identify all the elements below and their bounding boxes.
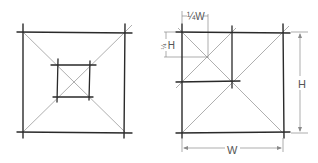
quarter-height-letter: H <box>168 40 175 51</box>
quadrant-diagonal <box>176 28 236 88</box>
height-label: H <box>298 79 306 90</box>
diagonal-line <box>182 26 289 133</box>
left-figure <box>17 24 132 138</box>
quarter-fraction: ¼ <box>160 44 167 50</box>
quarter-width-label: ¼W <box>187 12 205 22</box>
quarter-height-label: ¼H <box>161 41 175 51</box>
inner-square <box>51 59 96 102</box>
width-label: W <box>227 145 237 156</box>
diagonal-extension <box>125 25 132 32</box>
right-figure <box>164 11 308 152</box>
diagram-canvas <box>0 0 318 163</box>
